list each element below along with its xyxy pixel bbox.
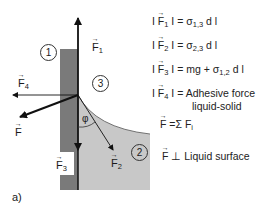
- label-f3: F3: [56, 160, 67, 173]
- eq4-bar-close: I =: [171, 87, 183, 99]
- perp-symbol: ⊥: [171, 150, 181, 162]
- f4-sub: 4: [25, 82, 29, 91]
- f1-sub: 1: [99, 46, 103, 55]
- eq4-bar-open: I: [152, 87, 155, 99]
- f1-symbol: F: [92, 42, 99, 53]
- eq2-bar-open: I: [152, 39, 155, 51]
- eq2-rhs-tail: d l: [203, 39, 217, 51]
- region-2-number: 2: [137, 147, 143, 158]
- eq4-sub: 4: [164, 92, 168, 101]
- f3-symbol: F: [56, 160, 63, 171]
- equation-3: I F3 I = mg + σ1,2 d l: [152, 64, 244, 77]
- eq2-rhs-sub: 2,3: [193, 44, 203, 53]
- sum-operator: =Σ: [169, 118, 182, 130]
- label-f4: F4: [18, 78, 29, 91]
- sum-equation: F =Σ Fi: [160, 119, 193, 132]
- eq4-line2-text: liquid-solid: [192, 100, 242, 112]
- wetting-force-diagram: 1 3 2 F1 F4 F F3 F2 φ a) I F1 I = σ1,3 d…: [0, 0, 267, 207]
- eq3-bar-close: I = mg +: [171, 63, 210, 75]
- eq1-vec: F: [158, 16, 164, 27]
- label-f2: F2: [111, 158, 122, 171]
- f2-symbol: F: [111, 158, 118, 169]
- region-1-label: 1: [40, 44, 57, 61]
- perp-vec: F: [162, 151, 168, 162]
- eq1-sub: 1: [164, 20, 168, 29]
- eq4-rhs: Adhesive force: [186, 87, 255, 99]
- equation-2: I F2 I = σ2,3 d l: [152, 40, 217, 53]
- sum-term-sub: i: [191, 123, 193, 132]
- f-symbol: F: [15, 127, 22, 138]
- region-2-label: 2: [131, 144, 148, 161]
- f3-sub: 3: [63, 164, 67, 173]
- perpendicular-statement: F ⊥ Liquid surface: [162, 151, 250, 162]
- region-1-number: 1: [46, 47, 52, 58]
- sum-vec: F: [160, 119, 166, 130]
- eq1-rhs-sub: 1,3: [193, 20, 203, 29]
- eq1-bar-open: I: [152, 15, 155, 27]
- eq4-vec: F: [158, 88, 164, 99]
- phi-symbol: φ: [82, 113, 88, 124]
- panel-label-text: a): [12, 191, 22, 203]
- equation-4-continuation: liquid-solid: [192, 101, 242, 112]
- label-f1: F1: [92, 42, 103, 55]
- equation-1: I F1 I = σ1,3 d l: [152, 16, 217, 29]
- equation-4: I F4 I = Adhesive force: [152, 88, 255, 101]
- f4-symbol: F: [18, 78, 25, 89]
- panel-label: a): [12, 192, 22, 203]
- eq3-rhs-tail: d l: [230, 63, 244, 75]
- label-f: F: [15, 127, 22, 138]
- eq1-rhs-tail: d l: [203, 15, 217, 27]
- eq2-bar-close: I =: [171, 39, 183, 51]
- eq3-sub: 3: [164, 68, 168, 77]
- region-3-number: 3: [98, 78, 104, 89]
- eq2-sub: 2: [164, 44, 168, 53]
- angle-phi-label: φ: [82, 114, 88, 124]
- f2-sub: 2: [118, 162, 122, 171]
- eq3-rhs-sub: 1,2: [219, 68, 229, 77]
- eq2-vec: F: [158, 40, 164, 51]
- region-3-label: 3: [92, 75, 109, 92]
- eq1-bar-close: I =: [171, 15, 183, 27]
- perp-text: Liquid surface: [184, 150, 249, 162]
- eq3-vec: F: [158, 64, 164, 75]
- eq3-bar-open: I: [152, 63, 155, 75]
